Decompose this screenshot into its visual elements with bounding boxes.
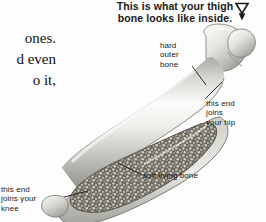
page-canvas: ones. d even o it, This is what your thi…: [0, 0, 266, 222]
body-copy-line: o it,: [0, 70, 56, 91]
label-line: joins: [206, 108, 262, 117]
body-copy-line: ones.: [0, 28, 56, 49]
label-joins-knee: this end joins your knee: [1, 185, 63, 213]
leader-line-joins-knee: [64, 191, 88, 197]
double-down-triangle-icon: [235, 2, 249, 22]
label-line: this end: [1, 185, 63, 194]
label-line: hard: [160, 41, 200, 50]
body-copy-line: d even: [0, 49, 56, 70]
label-line: bone: [160, 60, 200, 69]
label-hard-outer-bone: hard outer bone: [160, 41, 200, 69]
label-line: your hip: [206, 118, 262, 127]
label-line: soft living bone: [143, 171, 213, 180]
femur-distal-cutaway: [42, 115, 230, 222]
page-title: This is what your thigh bone looks like …: [114, 1, 236, 24]
femur-proximal-head: [204, 24, 256, 71]
page-title-line-1: This is what your thigh: [114, 1, 236, 13]
leader-line-soft-living-bone: [118, 163, 142, 175]
label-line: this end: [206, 99, 262, 108]
label-soft-living-bone: soft living bone: [143, 171, 213, 180]
label-joins-hip: this end joins your hip: [206, 99, 262, 127]
leader-line-joins-hip: [205, 82, 222, 99]
label-line: knee: [1, 204, 63, 213]
page-title-line-2: bone looks like inside.: [114, 13, 236, 25]
femur-lesser-trochanter: [205, 62, 219, 78]
label-line: joins your: [1, 194, 63, 203]
label-line: outer: [160, 50, 200, 59]
body-copy-fragment: ones. d even o it,: [0, 28, 56, 91]
